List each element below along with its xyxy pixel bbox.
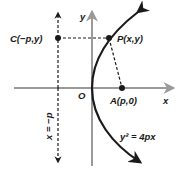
point-a-label: A(p,0) [109, 95, 137, 106]
directrix-label: x = −p [43, 112, 54, 141]
y-axis-label: y [79, 11, 86, 22]
point-a [119, 85, 125, 91]
point-p-label: P(x,y) [117, 33, 143, 44]
point-c [55, 35, 61, 41]
point-c-label: C(−p,y) [10, 33, 42, 44]
segment-pa [109, 38, 122, 88]
parabola-diagram: y x O C(−p,y) P(x,y) A(p,0) x = −p y² = … [0, 0, 183, 181]
curve-equation-label: y² = 4px [119, 131, 156, 142]
x-axis-label: x [162, 95, 169, 106]
point-p [106, 35, 112, 41]
origin-label: O [78, 90, 86, 101]
